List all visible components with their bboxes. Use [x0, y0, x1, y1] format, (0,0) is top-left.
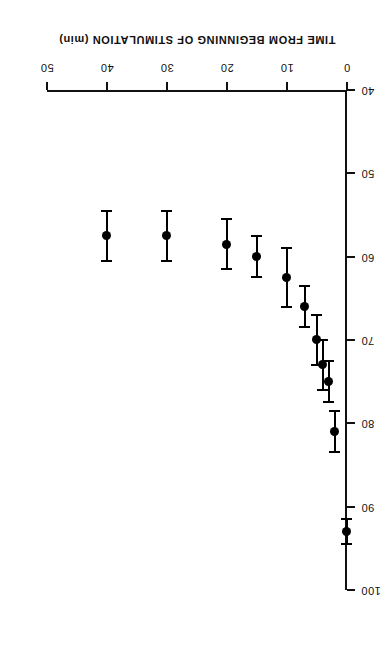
y-tick-mark	[347, 422, 355, 424]
data-point-marker	[283, 273, 292, 282]
error-bar-cap	[318, 389, 329, 391]
y-tick-label: 80	[361, 418, 374, 430]
error-bar-cap	[312, 364, 323, 366]
x-tick-label: 10	[280, 62, 293, 74]
error-bar-cap	[342, 543, 353, 545]
error-bar-cap	[330, 410, 341, 412]
y-tick-mark	[347, 172, 355, 174]
data-point-marker	[163, 231, 172, 240]
y-tick-label: 90	[361, 502, 374, 514]
x-tick-label: 40	[100, 62, 113, 74]
error-bar-cap	[330, 452, 341, 454]
y-tick-label: 40	[361, 85, 374, 97]
data-point-marker	[313, 336, 322, 345]
error-bar-cap	[342, 518, 353, 520]
error-bar-cap	[222, 268, 233, 270]
data-point-marker	[103, 231, 112, 240]
x-tick-label: 20	[220, 62, 233, 74]
figure-rotated-canvas: 01020304050 405060708090100 TIME FROM BE…	[0, 0, 391, 660]
error-bar-cap	[312, 314, 323, 316]
error-bar-cap	[252, 277, 263, 279]
error-bar-cap	[324, 402, 335, 404]
error-bar-cap	[252, 235, 263, 237]
x-tick-mark	[106, 82, 108, 90]
error-bar-cap	[282, 247, 293, 249]
error-bar-cap	[282, 306, 293, 308]
x-tick-mark	[286, 82, 288, 90]
error-bar-cap	[102, 260, 113, 262]
error-bar-cap	[102, 210, 113, 212]
plot-area: 01020304050 405060708090100 TIME FROM BE…	[47, 90, 347, 590]
y-tick-mark	[347, 256, 355, 258]
data-point-marker	[331, 427, 340, 436]
data-point-marker	[223, 240, 232, 249]
error-bar-cap	[162, 210, 173, 212]
x-axis-title: TIME FROM BEGINNING OF STIMULATION (min)	[59, 34, 336, 46]
data-point-marker	[343, 527, 352, 536]
y-tick-label: 50	[361, 168, 374, 180]
x-tick-mark	[46, 82, 48, 90]
x-tick-label: 50	[40, 62, 53, 74]
x-tick-mark	[166, 82, 168, 90]
x-tick-mark	[226, 82, 228, 90]
y-tick-mark	[347, 339, 355, 341]
x-tick-label: 30	[160, 62, 173, 74]
data-point-marker	[325, 377, 334, 386]
y-tick-label: 100	[361, 585, 381, 597]
y-tick-label: 70	[361, 335, 374, 347]
data-point-marker	[301, 302, 310, 311]
error-bar-cap	[300, 327, 311, 329]
figure-root: 01020304050 405060708090100 TIME FROM BE…	[0, 0, 391, 660]
error-bar-cap	[222, 218, 233, 220]
error-bar-cap	[300, 285, 311, 287]
y-tick-mark	[347, 589, 355, 591]
y-tick-label: 60	[361, 252, 374, 264]
y-tick-mark	[347, 506, 355, 508]
data-point-marker	[253, 252, 262, 261]
x-axis-line	[47, 90, 347, 92]
y-tick-mark	[347, 89, 355, 91]
error-bar-cap	[162, 260, 173, 262]
x-tick-label: 0	[344, 62, 351, 74]
